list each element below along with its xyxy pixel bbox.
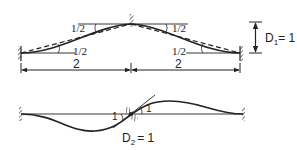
d2-subscript: 2 bbox=[131, 138, 136, 147]
d2-label: D bbox=[122, 131, 131, 145]
angle-arc bbox=[121, 114, 123, 121]
bottom-figure: 1 1 D2= 1 bbox=[19, 95, 245, 147]
deflection-diagram: 1/2 1/2 1/2 1/2 D1= 1 2 2 bbox=[0, 0, 297, 150]
span-label-right: 2 bbox=[175, 57, 182, 71]
angle-label: 1/2 bbox=[172, 45, 186, 57]
svg-text:D2= 1: D2= 1 bbox=[122, 131, 154, 147]
span-label-left: 2 bbox=[73, 57, 80, 71]
angle-label: 1/2 bbox=[71, 22, 85, 34]
angle-label: 1/2 bbox=[172, 22, 186, 34]
d1-value: = 1 bbox=[278, 31, 295, 45]
right-fixed-support-icon bbox=[240, 46, 243, 61]
d2-value: = 1 bbox=[137, 131, 154, 145]
deflected-shape-top bbox=[21, 24, 240, 53]
angle-label: 1 bbox=[146, 103, 152, 114]
angle-label: 1/2 bbox=[73, 45, 87, 57]
span-dimensions: 2 2 bbox=[21, 57, 240, 73]
d1-label: D bbox=[265, 31, 274, 45]
top-figure: 1/2 1/2 1/2 1/2 D1= 1 2 2 bbox=[18, 14, 295, 73]
d1-dimension: D1= 1 bbox=[249, 22, 295, 53]
svg-text:D1= 1: D1= 1 bbox=[265, 31, 295, 47]
angle-label: 1 bbox=[112, 111, 118, 122]
left-fixed-support-icon bbox=[18, 46, 21, 61]
